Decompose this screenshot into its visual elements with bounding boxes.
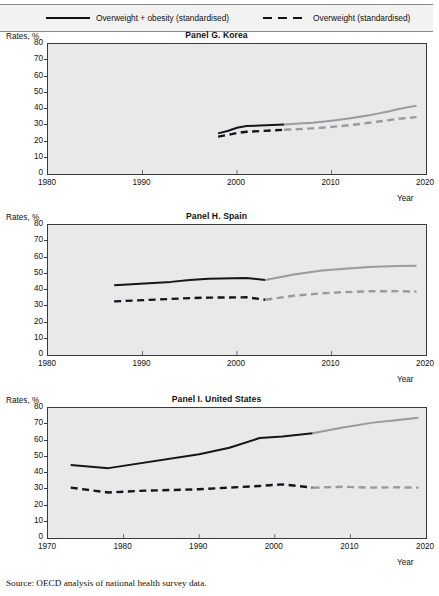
y-axis-tick-mark [44,141,48,142]
panel-title-korea: Panel G. Korea [0,30,433,40]
y-axis-tick-label: 40 [19,467,43,476]
plot-area-korea [47,43,427,175]
x-axis-tick-label: 2020 [405,359,439,368]
x-axis-tick-label: 1990 [122,178,162,187]
legend-item-overweight: Overweight (standardised) [263,13,410,23]
source-note: Source: OECD analysis of national health… [6,578,207,588]
y-axis-tick-mark [44,423,48,424]
y-axis-tick-mark [44,488,48,489]
y-axis-tick-mark [44,472,48,473]
x-axis-tick-label: 2020 [405,542,439,551]
series-line [71,484,313,492]
y-axis-tick-mark [44,240,48,241]
x-axis-tick-label: 2000 [216,359,256,368]
y-axis-tick-mark [44,456,48,457]
y-axis-tick-label: 30 [19,119,43,128]
y-axis-tick-mark [44,157,48,158]
x-axis-tick-label: 1980 [27,178,67,187]
y-axis-tick-mark [44,338,48,339]
y-axis-tick-mark [44,322,48,323]
chart-legend: Overweight + obesity (standardised) Over… [0,4,433,32]
series-line [265,266,416,280]
y-axis-tick-label: 20 [19,317,43,326]
x-axis-tick-label: 2010 [329,542,369,551]
y-axis-tick-mark [44,257,48,258]
plot-area-united-states [47,407,427,539]
y-axis-tick-mark [44,273,48,274]
y-axis-tick-label: 10 [19,333,43,342]
legend-swatch-solid-line [46,13,90,23]
x-axis-tick-label: 2000 [216,178,256,187]
y-axis-tick-label: 70 [19,54,43,63]
x-axis-tick-label: 1980 [103,542,143,551]
y-axis-tick-label: 60 [19,71,43,80]
y-axis-tick-label: 50 [19,87,43,96]
series-line [114,278,265,285]
x-axis-tick-label: 1970 [27,542,67,551]
y-axis-tick-label: 50 [19,268,43,277]
y-axis-tick-mark [44,108,48,109]
y-axis-tick-mark [44,76,48,77]
y-axis-tick-mark [44,521,48,522]
y-axis-tick-mark [44,59,48,60]
y-axis-tick-mark [44,505,48,506]
y-axis-tick-mark [44,92,48,93]
legend-label-overweight: Overweight (standardised) [313,13,410,23]
x-axis-tick-label: 2010 [311,359,351,368]
series-line [218,124,284,133]
y-axis-tick-label: 20 [19,136,43,145]
y-axis-tick-label: 30 [19,483,43,492]
legend-item-overweight-obesity: Overweight + obesity (standardised) [46,13,229,23]
x-axis-tick-label: 2010 [311,178,351,187]
y-axis-tick-label: 80 [19,219,43,228]
series-line [313,418,419,433]
x-axis-tick-label: 1990 [122,359,162,368]
y-axis-tick-label: 70 [19,418,43,427]
y-axis-tick-label: 70 [19,235,43,244]
series-line [313,487,419,488]
series-line [71,433,313,468]
y-axis-tick-mark [44,305,48,306]
y-axis-tick-mark [44,124,48,125]
chart-panel-korea: Panel G. Korea Rates, % Year 01020304050… [0,30,433,210]
y-axis-tick-label: 0 [19,168,43,177]
chart-panel-united-states: Panel I. United States Rates, % Year 010… [0,394,433,576]
x-axis-title-spain: Year [397,375,414,384]
panel-title-spain: Panel H. Spain [0,211,433,221]
y-axis-tick-label: 80 [19,402,43,411]
series-line [265,291,416,300]
y-axis-tick-label: 60 [19,252,43,261]
y-axis-tick-label: 30 [19,300,43,309]
legend-label-overweight-obesity: Overweight + obesity (standardised) [96,13,229,23]
panel-title-united-states: Panel I. United States [0,394,433,404]
y-axis-tick-mark [44,289,48,290]
y-axis-tick-label: 0 [19,349,43,358]
plot-area-spain [47,224,427,356]
series-line [114,297,265,301]
y-axis-tick-label: 0 [19,532,43,541]
legend-swatch-dashed-line [263,13,307,23]
y-axis-tick-mark [44,440,48,441]
plot-svg [48,408,426,538]
y-axis-tick-label: 40 [19,103,43,112]
plot-svg [48,225,426,355]
y-axis-tick-label: 10 [19,516,43,525]
series-line [284,106,416,125]
x-axis-tick-label: 2000 [254,542,294,551]
x-axis-title-korea: Year [397,194,414,203]
y-axis-tick-label: 10 [19,152,43,161]
x-axis-tick-label: 1990 [178,542,218,551]
x-axis-tick-label: 2020 [405,178,439,187]
plot-svg [48,44,426,174]
chart-panel-spain: Panel H. Spain Rates, % Year 01020304050… [0,211,433,393]
y-axis-tick-label: 50 [19,451,43,460]
y-axis-tick-label: 20 [19,500,43,509]
y-axis-tick-label: 40 [19,284,43,293]
x-axis-title-united-states: Year [397,558,414,567]
x-axis-tick-label: 1980 [27,359,67,368]
y-axis-tick-label: 80 [19,38,43,47]
y-axis-tick-label: 60 [19,435,43,444]
